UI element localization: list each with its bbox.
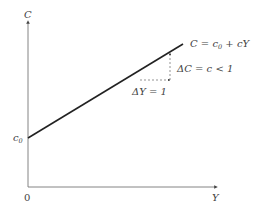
delta-y-label: ΔY = 1 — [131, 86, 167, 97]
origin-label: 0 — [24, 192, 30, 203]
intercept-label: c0 — [13, 132, 23, 145]
consumption-function-diagram: C Y 0 c0 C = c0 + cY ΔC = c < 1 ΔY = 1 — [0, 0, 256, 214]
y-axis-label: C — [24, 9, 32, 20]
delta-c-label: ΔC = c < 1 — [176, 63, 233, 74]
x-axis-label: Y — [212, 192, 220, 203]
equation-label: C = c0 + cY — [190, 38, 251, 51]
